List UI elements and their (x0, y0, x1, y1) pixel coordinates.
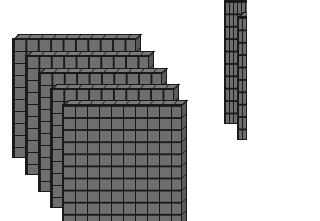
flat-front-grid (62, 104, 182, 221)
flat-5 (62, 100, 188, 221)
flat-side-edge (182, 100, 187, 221)
flat-front-grid (237, 16, 247, 140)
right-flat-2 (237, 12, 247, 142)
